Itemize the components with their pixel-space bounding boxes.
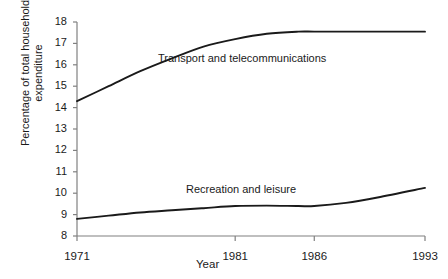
y-axis-tick-label: 8 <box>45 229 67 241</box>
y-axis-tick-label: 13 <box>45 122 67 134</box>
y-axis-tick-label: 16 <box>45 58 67 70</box>
y-axis-tick-label: 17 <box>45 36 67 48</box>
y-axis-tick-label: 15 <box>45 79 67 91</box>
y-axis-title-text: Percentage of total household expenditur… <box>19 0 44 146</box>
y-axis-tick-label: 9 <box>45 208 67 220</box>
y-axis-tick-label: 14 <box>45 101 67 113</box>
series-label-transport: Transport and telecommunications <box>158 52 326 64</box>
x-axis-tick-label: 1981 <box>215 250 255 262</box>
x-axis-tick-label: 1971 <box>57 250 97 262</box>
series-label-recreation: Recreation and leisure <box>186 183 296 195</box>
chart-figure: Percentage of total household expenditur… <box>0 0 448 279</box>
line-chart-plot <box>0 0 448 279</box>
y-axis-tick-label: 10 <box>45 186 67 198</box>
x-axis-tick-label: 1986 <box>294 250 334 262</box>
y-axis-tick-label: 11 <box>45 165 67 177</box>
x-axis-tick-label: 1993 <box>405 250 445 262</box>
y-axis-tick-label: 18 <box>45 15 67 27</box>
y-axis-tick-label: 12 <box>45 143 67 155</box>
series-line-transport <box>77 31 425 101</box>
y-axis-title: Percentage of total household expenditur… <box>19 0 45 183</box>
